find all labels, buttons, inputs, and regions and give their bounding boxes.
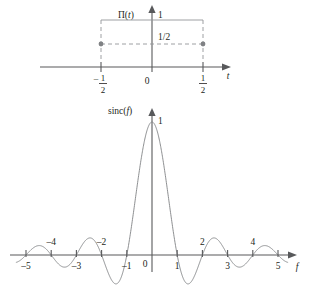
- rect-tick-label-right: 1 2: [199, 73, 207, 95]
- rect-marker-right: [201, 42, 206, 47]
- sinc-tick-label-5: 5: [276, 261, 281, 271]
- sinc-tick-label--5: –5: [20, 261, 31, 271]
- rect-tick-label-left-numerator: 1: [101, 73, 106, 83]
- sinc-tick-label-3: 3: [225, 261, 230, 271]
- plot-canvas: Π(t) 1 1/2 0 – 1 2 1 2 t: [0, 0, 319, 296]
- sinc-x-axis-arrow-icon: [288, 251, 297, 258]
- sinc-y-axis-arrow-icon: [148, 108, 155, 116]
- rect-half-label: 1/2: [158, 32, 170, 42]
- sinc-tick-label--2: –2: [96, 237, 107, 247]
- figure-container: Π(t) 1 1/2 0 – 1 2 1 2 t: [0, 0, 319, 296]
- sinc-tick-label--1: –1: [121, 261, 132, 271]
- sinc-tick-label-4: 4: [250, 237, 255, 247]
- sinc-peak-label: 1: [158, 116, 163, 126]
- rect-function-label: Π(t): [118, 10, 134, 21]
- rect-y-axis-arrow-icon: [148, 5, 155, 13]
- sinc-tick-label-1: 1: [175, 261, 180, 271]
- rect-marker-left: [99, 42, 104, 47]
- sinc-tick-label-group: –5–4–3–2–112345: [20, 237, 280, 271]
- sinc-origin-label: 0: [143, 259, 148, 269]
- rect-tick-label-left-sign: –: [93, 73, 99, 83]
- sinc-x-axis-label: f: [296, 262, 300, 272]
- rect-x-axis-label: t: [227, 71, 230, 81]
- rect-tick-label-right-numerator: 1: [201, 73, 206, 83]
- rect-function-plot: Π(t) 1 1/2 0 – 1 2 1 2 t: [40, 5, 231, 95]
- sinc-tick-label-2: 2: [200, 237, 205, 247]
- sinc-tick-label--4: –4: [45, 237, 56, 247]
- sinc-function-label: sinc(f): [108, 106, 132, 117]
- rect-tick-label-left: – 1 2: [93, 73, 107, 95]
- rect-origin-label: 0: [145, 76, 150, 86]
- sinc-tick-label--3: –3: [71, 261, 82, 271]
- rect-tick-label-right-denominator: 2: [201, 85, 206, 95]
- rect-tick-label-left-denominator: 2: [101, 85, 106, 95]
- sinc-function-plot: –5–4–3–2–112345 sinc(f) 1 0 f: [10, 106, 300, 284]
- rect-y-top-label: 1: [158, 10, 163, 20]
- rect-x-axis-arrow-icon: [222, 63, 231, 70]
